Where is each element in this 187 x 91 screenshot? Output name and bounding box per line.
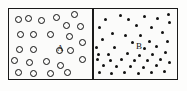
particle-open-circle bbox=[79, 39, 86, 46]
particle-open-circle bbox=[30, 46, 37, 53]
particle-filled-dot bbox=[107, 53, 110, 56]
particle-filled-dot bbox=[156, 17, 159, 20]
particle-filled-dot bbox=[142, 66, 145, 69]
particle-open-circle bbox=[77, 23, 84, 30]
particle-open-circle bbox=[64, 69, 71, 76]
particle-filled-dot bbox=[119, 14, 122, 17]
particle-open-circle bbox=[43, 58, 50, 65]
particle-open-circle bbox=[26, 59, 33, 66]
figure-root: A B bbox=[0, 0, 187, 91]
particle-filled-dot bbox=[143, 47, 146, 50]
particle-filled-dot bbox=[123, 71, 126, 74]
compartment-label-a: A bbox=[57, 44, 64, 53]
particle-open-circle bbox=[57, 62, 64, 69]
particle-open-circle bbox=[67, 47, 74, 54]
particle-filled-dot bbox=[168, 61, 171, 64]
particle-filled-dot bbox=[168, 21, 171, 24]
particle-filled-dot bbox=[98, 26, 101, 29]
particle-filled-dot bbox=[101, 38, 104, 41]
particle-open-circle bbox=[63, 22, 70, 29]
particle-filled-dot bbox=[131, 41, 134, 44]
particle-open-circle bbox=[30, 70, 37, 77]
compartment-a: A bbox=[9, 9, 92, 79]
compartment-label-b: B bbox=[136, 42, 142, 51]
particle-filled-dot bbox=[133, 59, 136, 62]
particle-filled-dot bbox=[143, 15, 146, 18]
particle-filled-dot bbox=[96, 58, 99, 61]
particle-open-circle bbox=[15, 16, 22, 23]
particle-filled-dot bbox=[109, 59, 112, 62]
particle-filled-dot bbox=[164, 51, 167, 54]
particle-open-circle bbox=[25, 15, 32, 22]
particle-filled-dot bbox=[146, 59, 149, 62]
particle-filled-dot bbox=[139, 34, 142, 37]
particle-filled-dot bbox=[167, 13, 170, 16]
particle-open-circle bbox=[11, 57, 18, 64]
compartment-b: B bbox=[93, 9, 176, 79]
particle-filled-dot bbox=[159, 58, 162, 61]
particle-filled-dot bbox=[97, 53, 100, 56]
particle-filled-dot bbox=[113, 46, 116, 49]
particle-open-circle bbox=[30, 31, 37, 38]
particle-open-circle bbox=[47, 31, 54, 38]
particle-filled-dot bbox=[155, 45, 158, 48]
particle-filled-dot bbox=[137, 72, 140, 75]
particle-filled-dot bbox=[138, 54, 141, 57]
particle-open-circle bbox=[38, 17, 45, 24]
particle-filled-dot bbox=[135, 24, 138, 27]
particle-open-circle bbox=[17, 31, 24, 38]
particle-filled-dot bbox=[110, 72, 113, 75]
particle-open-circle bbox=[71, 11, 78, 18]
particle-open-circle bbox=[79, 56, 86, 63]
particle-filled-dot bbox=[120, 58, 123, 61]
particle-filled-dot bbox=[161, 31, 164, 34]
particle-filled-dot bbox=[163, 70, 166, 73]
particle-open-circle bbox=[16, 46, 23, 53]
particle-filled-dot bbox=[126, 52, 129, 55]
particle-filled-dot bbox=[155, 64, 158, 67]
particle-open-circle bbox=[15, 69, 22, 76]
particle-filled-dot bbox=[124, 34, 127, 37]
particle-filled-dot bbox=[166, 40, 169, 43]
particle-filled-dot bbox=[98, 71, 101, 74]
particle-open-circle bbox=[47, 70, 54, 77]
particle-filled-dot bbox=[150, 71, 153, 74]
particle-open-circle bbox=[66, 33, 73, 40]
container-box: A B bbox=[8, 8, 178, 80]
particle-filled-dot bbox=[127, 18, 130, 21]
particle-filled-dot bbox=[129, 65, 132, 68]
particle-open-circle bbox=[53, 14, 60, 21]
particle-filled-dot bbox=[104, 18, 107, 21]
particle-filled-dot bbox=[115, 65, 118, 68]
particle-filled-dot bbox=[151, 53, 154, 56]
particle-filled-dot bbox=[95, 46, 98, 49]
particle-filled-dot bbox=[111, 32, 114, 35]
particle-filled-dot bbox=[150, 26, 153, 29]
particle-filled-dot bbox=[102, 64, 105, 67]
particle-filled-dot bbox=[148, 40, 151, 43]
